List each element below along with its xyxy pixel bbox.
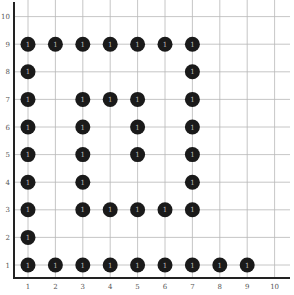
svg-text:1: 1 [163,41,167,49]
x-tick-label: 10 [270,283,279,291]
svg-text:1: 1 [190,151,194,159]
data-point: 1 [21,92,36,107]
svg-text:1: 1 [108,96,112,104]
y-tick-label: 8 [6,68,10,76]
y-tick-label: 9 [6,41,10,49]
y-tick-label: 1 [6,262,10,270]
svg-text:1: 1 [108,206,112,214]
data-point: 1 [75,120,90,135]
data-point: 1 [130,147,145,162]
svg-text:1: 1 [26,234,30,242]
data-point: 1 [21,147,36,162]
data-point: 1 [48,258,63,273]
x-tick-label: 6 [163,283,168,291]
data-point: 1 [130,92,145,107]
data-point: 1 [21,64,36,79]
svg-text:1: 1 [81,96,85,104]
svg-text:1: 1 [26,151,30,159]
svg-text:1: 1 [81,179,85,187]
svg-text:1: 1 [163,262,167,270]
svg-text:1: 1 [26,96,30,104]
data-point: 1 [130,258,145,273]
svg-text:1: 1 [26,206,30,214]
svg-text:1: 1 [135,124,139,132]
x-tick-label: 8 [218,283,222,291]
y-tick-label: 4 [6,179,11,187]
svg-text:1: 1 [135,262,139,270]
data-point: 1 [75,202,90,217]
data-point: 1 [130,120,145,135]
data-point: 1 [130,37,145,52]
x-tick-label: 2 [53,283,57,291]
data-point: 1 [212,258,227,273]
svg-text:1: 1 [26,41,30,49]
data-point: 1 [75,175,90,190]
svg-text:1: 1 [190,96,194,104]
svg-text:1: 1 [135,206,139,214]
data-point: 1 [185,64,200,79]
svg-text:1: 1 [26,124,30,132]
svg-text:1: 1 [81,41,85,49]
y-tick-label: 3 [6,206,10,214]
svg-text:1: 1 [190,206,194,214]
data-point: 1 [158,258,173,273]
data-point: 1 [75,37,90,52]
data-point: 1 [75,147,90,162]
data-point: 1 [158,202,173,217]
svg-text:1: 1 [81,124,85,132]
svg-text:1: 1 [218,262,222,270]
data-point: 1 [103,202,118,217]
data-point: 1 [103,37,118,52]
svg-text:1: 1 [53,262,57,270]
x-tick-label: 1 [26,283,30,291]
data-point: 1 [185,37,200,52]
data-point: 1 [75,92,90,107]
svg-text:1: 1 [108,41,112,49]
data-point: 1 [103,258,118,273]
data-point: 1 [185,120,200,135]
svg-text:1: 1 [135,96,139,104]
y-tick-label: 7 [6,96,10,104]
x-tick-label: 4 [108,283,113,291]
data-point: 1 [158,37,173,52]
svg-text:1: 1 [190,179,194,187]
data-point: 1 [185,202,200,217]
x-tick-label: 5 [135,283,139,291]
data-point: 1 [240,258,255,273]
svg-text:1: 1 [26,179,30,187]
y-tick-label: 10 [1,13,10,21]
data-point: 1 [48,37,63,52]
data-point: 1 [75,258,90,273]
data-point: 1 [185,175,200,190]
svg-text:1: 1 [108,262,112,270]
data-point: 1 [21,120,36,135]
svg-text:1: 1 [135,41,139,49]
scatter-chart: 1234567891012345678910 11111111111111111… [0,0,294,295]
svg-text:1: 1 [190,124,194,132]
svg-text:1: 1 [26,262,30,270]
data-point: 1 [21,202,36,217]
y-tick-label: 5 [6,151,10,159]
x-tick-label: 7 [190,283,194,291]
svg-text:1: 1 [81,206,85,214]
svg-text:1: 1 [135,151,139,159]
x-tick-label: 3 [81,283,85,291]
x-tick-label: 9 [245,283,249,291]
svg-text:1: 1 [190,68,194,76]
svg-text:1: 1 [81,262,85,270]
data-point: 1 [103,92,118,107]
data-point: 1 [21,175,36,190]
data-point: 1 [21,258,36,273]
y-tick-label: 2 [6,234,10,242]
svg-text:1: 1 [245,262,249,270]
data-point: 1 [130,202,145,217]
svg-text:1: 1 [190,262,194,270]
svg-text:1: 1 [53,41,57,49]
data-point: 1 [21,37,36,52]
data-point: 1 [21,230,36,245]
data-point: 1 [185,258,200,273]
svg-text:1: 1 [26,68,30,76]
y-tick-label: 6 [6,124,11,132]
svg-text:1: 1 [81,151,85,159]
data-point: 1 [185,92,200,107]
